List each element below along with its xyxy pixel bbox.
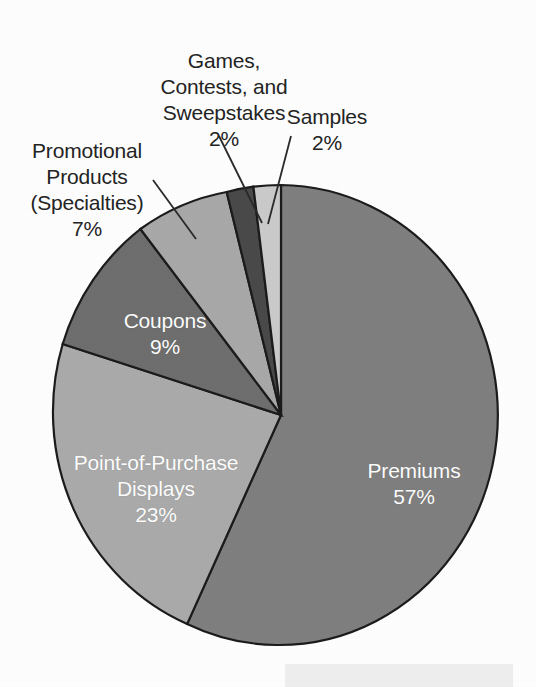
slice-label-premiums-text: Premiums	[368, 459, 461, 482]
slice-label-premiums-percent: 57%	[393, 485, 434, 508]
slice-label-samples-percent: 2%	[268, 130, 386, 156]
slice-label-samples-text: Samples	[287, 105, 367, 128]
slice-label-promotional-text: Promotional Products (Specialties)	[31, 139, 144, 214]
slice-label-promotional-products: Promotional Products (Specialties) 7%	[6, 112, 168, 268]
footer-band	[285, 664, 513, 687]
slice-label-premiums: Premiums 57%	[345, 432, 483, 510]
pie-chart-figure: Games, Contests, and Sweepstakes 2% Samp…	[0, 0, 536, 687]
slice-label-coupons: Coupons 9%	[95, 282, 235, 360]
slice-label-promotional-percent: 7%	[6, 216, 168, 242]
slice-label-pop-percent: 23%	[135, 503, 176, 526]
slice-label-coupons-text: Coupons	[124, 309, 207, 332]
slice-label-point-of-purchase-displays: Point-of-Purchase Displays 23%	[58, 424, 254, 528]
slice-label-pop-text: Point-of-Purchase Displays	[74, 451, 239, 500]
slice-label-samples: Samples 2%	[268, 78, 386, 182]
slice-label-coupons-percent: 9%	[150, 335, 180, 358]
